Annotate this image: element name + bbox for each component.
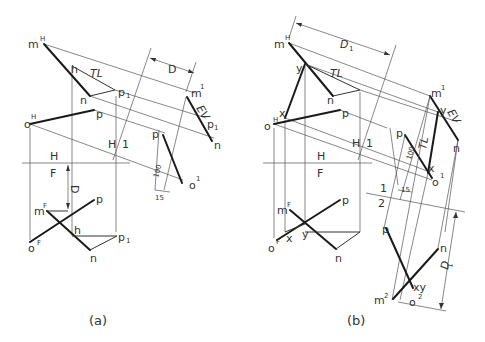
svg-text:x: x: [286, 232, 293, 245]
clearance-100-a: 100: [152, 164, 163, 179]
svg-text:o: o: [264, 120, 271, 133]
svg-text:1: 1: [380, 182, 387, 195]
fold-line-h1-a: [113, 48, 151, 160]
svg-text:o: o: [268, 242, 275, 255]
line-op-top-a: [30, 110, 94, 124]
svg-text:o: o: [432, 176, 439, 189]
svg-text:n: n: [335, 252, 342, 265]
svg-text:1: 1: [214, 124, 218, 132]
svg-text:p: p: [207, 118, 214, 131]
svg-text:D: D: [340, 38, 348, 51]
label-h: h: [71, 63, 78, 76]
svg-text:p: p: [152, 128, 159, 141]
width-15-a: 15: [155, 194, 164, 202]
fold-label-h1-h: H: [108, 138, 116, 151]
line-mn-front-b: [290, 210, 336, 249]
svg-text:F: F: [287, 201, 291, 209]
svg-text:TL: TL: [416, 136, 431, 151]
svg-text:TL: TL: [330, 67, 343, 80]
dimension-d-label: D: [168, 63, 176, 76]
svg-text:y: y: [296, 62, 303, 75]
svg-text:1: 1: [366, 137, 373, 150]
svg-text:H: H: [285, 34, 290, 42]
svg-text:p: p: [342, 107, 349, 120]
figure-b: D 1 H 1 H F m H y TL n o H x p m 1 y: [263, 16, 465, 328]
svg-text:H: H: [31, 113, 36, 121]
svg-text:p: p: [396, 127, 403, 140]
svg-text:1: 1: [446, 263, 455, 269]
label-p: p: [96, 108, 103, 121]
caption-a: (a): [89, 313, 107, 328]
svg-text:F: F: [37, 239, 41, 247]
svg-text:p: p: [118, 231, 125, 244]
svg-text:1: 1: [126, 237, 130, 245]
svg-text:2: 2: [418, 293, 422, 301]
svg-text:p: p: [382, 223, 389, 236]
label-n: n: [80, 94, 87, 107]
svg-text:n: n: [90, 252, 97, 265]
svg-text:o: o: [189, 179, 196, 192]
svg-text:p: p: [96, 193, 103, 206]
svg-text:H: H: [40, 35, 45, 43]
label-o: o: [24, 118, 31, 131]
svg-text:o: o: [409, 296, 416, 309]
svg-text:1: 1: [441, 84, 445, 92]
svg-text:2: 2: [378, 197, 385, 210]
svg-text:y: y: [302, 228, 309, 241]
svg-text:n: n: [214, 139, 221, 152]
dimension-d1-aux2-b: [441, 212, 456, 309]
svg-text:1: 1: [196, 175, 200, 183]
descriptive-geometry-drawing: H F H 1 D 100 15 m H h TL n p 1 o H p: [0, 0, 485, 342]
svg-text:H: H: [273, 116, 278, 124]
svg-text:D: D: [68, 185, 81, 193]
fold-label-f: F: [50, 167, 56, 180]
svg-text:n: n: [440, 242, 447, 255]
label-p1: p: [118, 86, 125, 99]
svg-text:h: h: [74, 224, 81, 237]
svg-text:1: 1: [200, 83, 204, 91]
svg-text:p: p: [342, 194, 349, 207]
svg-text:H: H: [317, 150, 325, 163]
fold-label-h1-1: 1: [122, 138, 129, 151]
svg-text:m: m: [274, 38, 285, 51]
figure-a: H F H 1 D 100 15 m H h TL n p 1 o H p: [22, 35, 221, 328]
label-tl: TL: [90, 67, 103, 80]
svg-text:15: 15: [401, 186, 410, 194]
svg-text:1: 1: [349, 45, 353, 53]
svg-text:o: o: [28, 242, 35, 255]
svg-text:H: H: [352, 137, 360, 150]
label-m: m: [28, 38, 39, 51]
svg-text:1: 1: [440, 172, 444, 180]
fold-label-h: H: [50, 150, 58, 163]
svg-text:x: x: [428, 162, 435, 175]
svg-text:n: n: [327, 94, 334, 107]
svg-text:F: F: [317, 167, 323, 180]
svg-text:F: F: [276, 238, 280, 246]
svg-text:x: x: [279, 107, 286, 120]
fold-line-h1-b: [358, 45, 396, 160]
svg-text:2: 2: [384, 292, 388, 300]
svg-text:F: F: [43, 202, 47, 210]
caption-b: (b): [347, 313, 365, 328]
svg-text:1: 1: [126, 92, 130, 100]
svg-text:100: 100: [405, 146, 416, 161]
